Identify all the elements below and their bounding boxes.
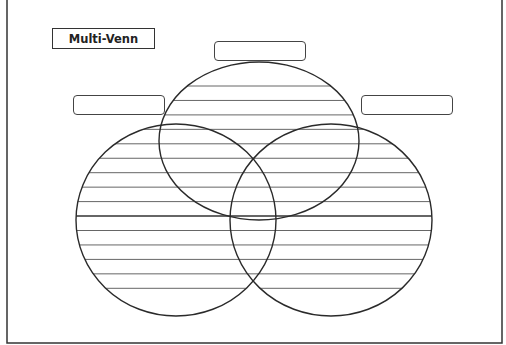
label-field-right[interactable] [361, 95, 453, 115]
label-field-top[interactable] [214, 41, 306, 61]
ruled-lines [60, 86, 450, 288]
label-field-left[interactable] [73, 95, 165, 115]
worksheet-title: Multi-Venn [52, 28, 155, 49]
